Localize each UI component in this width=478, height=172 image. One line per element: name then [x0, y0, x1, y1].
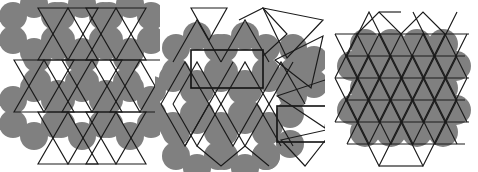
panel-1-svg: [0, 0, 160, 172]
panel-2-square-triangle-packing: [155, 0, 325, 172]
panel-1-kagome-packing: [0, 0, 160, 172]
panel-2-svg: [155, 0, 325, 172]
panel-1-disc-layer: [0, 0, 160, 150]
figure-container: [0, 0, 478, 172]
panel-3-svg: [325, 0, 478, 172]
panel-3-close-packed: [325, 0, 478, 172]
